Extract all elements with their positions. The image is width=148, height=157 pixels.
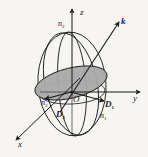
vector-label-D1-base: D	[105, 99, 112, 109]
axis-label-x: x	[18, 140, 22, 149]
axis-label-z: z	[80, 8, 84, 17]
vector-label-D2-base: D	[56, 109, 63, 119]
vector-label-D1-subscript: 1	[112, 105, 115, 110]
index-label-n1-subscript: 1	[104, 116, 107, 121]
index-label-n3-subscript: 3	[45, 103, 48, 108]
axis-label-y: y	[133, 94, 137, 103]
origin-label: O	[73, 95, 80, 104]
origin-point	[70, 91, 72, 93]
index-label-n2-subscript: 2	[62, 24, 65, 29]
vector-label-D2-subscript: 2	[63, 115, 66, 120]
index-label-n2: n2	[58, 20, 65, 28]
index-label-n1: n1	[100, 112, 107, 120]
vector-label-D2: D2	[56, 110, 65, 119]
index-label-n3: n3	[41, 99, 48, 107]
index-ellipsoid-figure: z y x k n2 n3 n1 D1 D2 O	[0, 0, 148, 157]
vector-label-k: k	[121, 17, 126, 26]
vector-label-D1: D1	[105, 100, 114, 109]
